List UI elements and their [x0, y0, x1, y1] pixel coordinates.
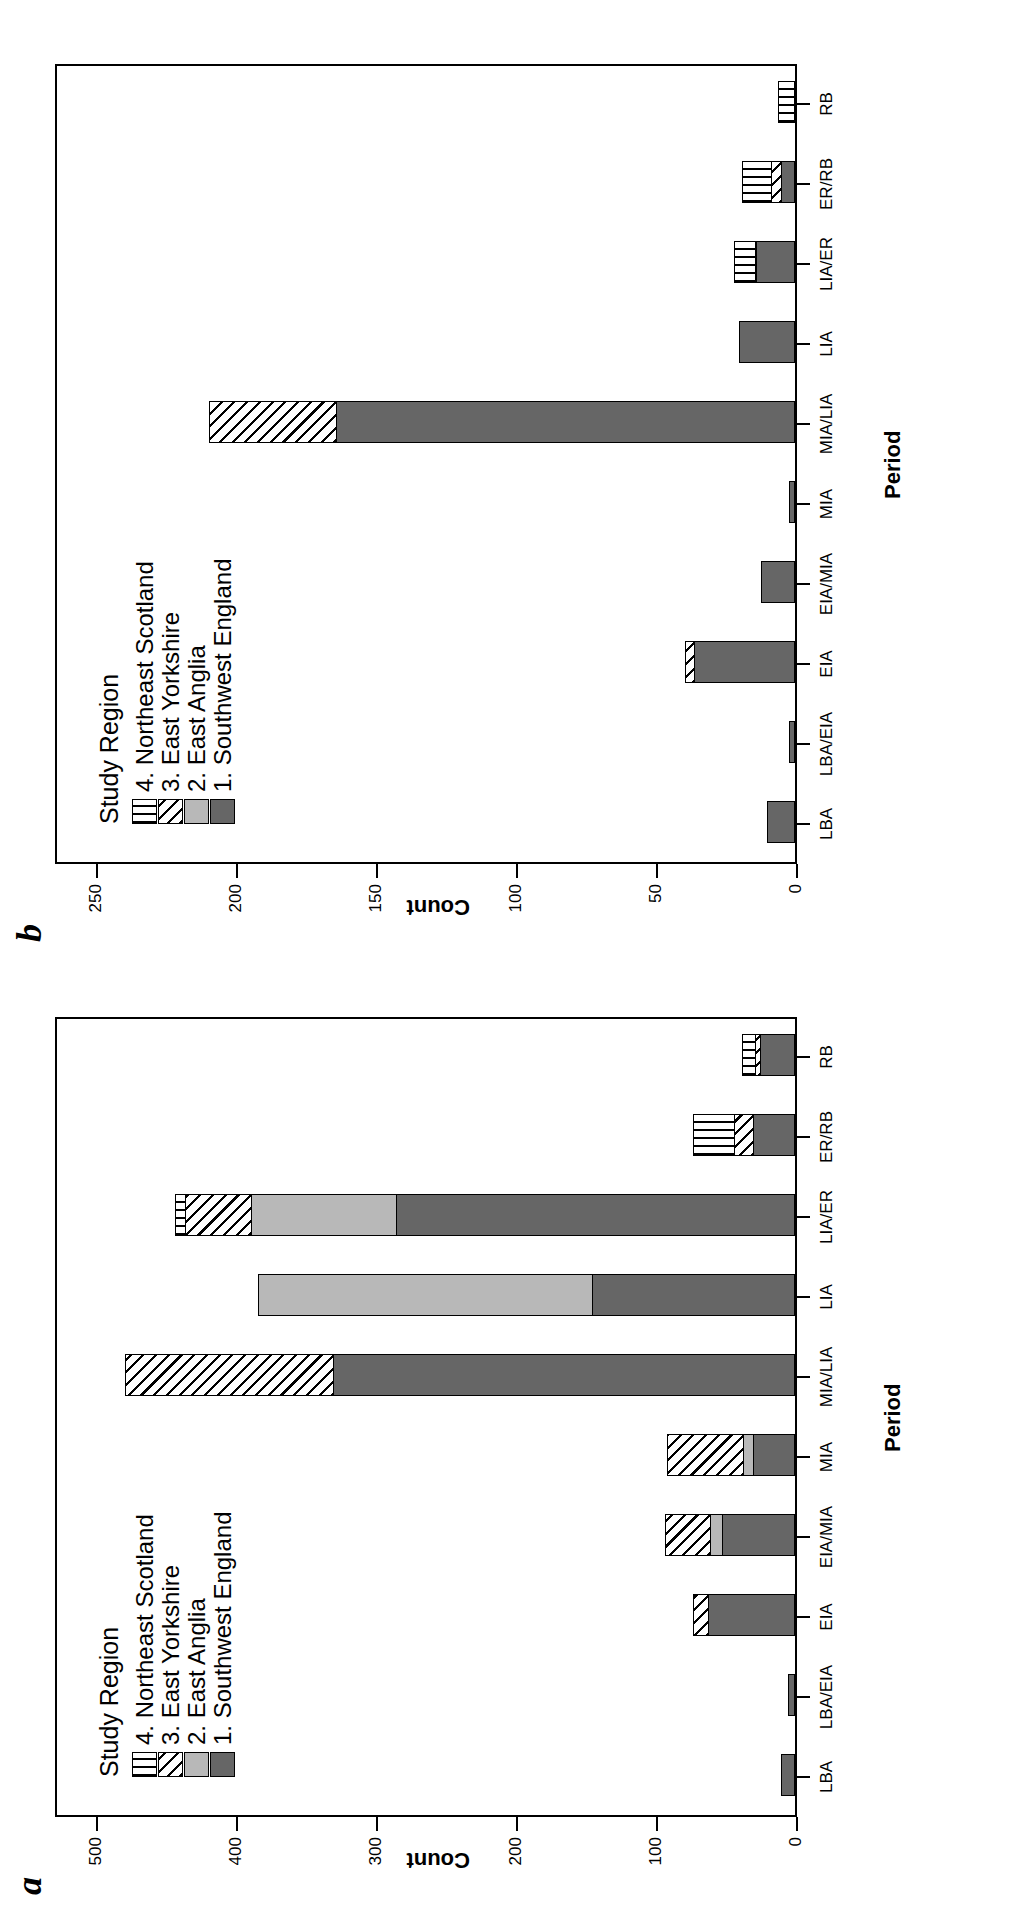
bar-segment-region-3	[667, 1434, 745, 1476]
y-tick-mark	[96, 864, 98, 878]
legend-swatch-diagonal-hatch-icon	[158, 799, 183, 824]
bar-group-LIA-ER	[57, 1194, 795, 1236]
bar-group-MIA	[57, 1434, 795, 1476]
bar-group-MIA-LIA	[57, 1354, 795, 1396]
y-tick-label: 0	[786, 884, 806, 942]
y-tick-mark	[376, 1817, 378, 1831]
stacked-bar	[667, 1514, 795, 1556]
y-tick-label: 500	[86, 1837, 106, 1895]
legend-item-2: 2. East Anglia	[184, 559, 209, 825]
legend-swatch-light-grey-icon	[184, 799, 209, 824]
y-tick-label: 250	[86, 884, 106, 942]
x-tick-mark	[797, 1536, 810, 1538]
legend-item-4: 4. Northeast Scotland	[132, 559, 157, 825]
bar-segment-region-3	[185, 1194, 252, 1236]
x-tick-mark	[797, 1616, 810, 1618]
x-tick-mark	[797, 183, 810, 185]
x-tick-mark	[797, 1696, 810, 1698]
stacked-bar	[695, 1114, 795, 1156]
x-tick-mark	[797, 1136, 810, 1138]
legend-item-label: 1. Southwest England	[209, 1512, 237, 1746]
bar-segment-region-1	[694, 641, 795, 683]
y-tick-mark	[376, 864, 378, 878]
bar-segment-region-1	[781, 1754, 795, 1796]
bar-segment-region-1	[767, 801, 795, 843]
y-tick-label: 0	[786, 1837, 806, 1895]
panel-b-y-axis-title: Count	[406, 894, 470, 920]
panel-b-x-axis-title: Period	[880, 431, 906, 499]
y-tick-mark	[96, 1817, 98, 1831]
legend-item-3: 3. East Yorkshire	[158, 1512, 183, 1778]
bar-segment-region-1	[333, 1354, 795, 1396]
stacked-bar	[177, 1194, 795, 1236]
stacked-bar	[126, 1354, 795, 1396]
legend-item-label: 4. Northeast Scotland	[131, 561, 159, 792]
stacked-bar	[791, 721, 795, 763]
stacked-bar	[783, 1754, 795, 1796]
bar-segment-region-1	[722, 1514, 795, 1556]
bar-group-MIA	[57, 481, 795, 523]
x-tick-mark	[797, 343, 810, 345]
legend-swatch-diagonal-hatch-icon	[158, 1752, 183, 1777]
y-tick-mark	[516, 864, 518, 878]
legend-item-label: 3. East Yorkshire	[157, 612, 185, 792]
bar-group-RB	[57, 1034, 795, 1076]
stacked-bar	[735, 241, 795, 283]
panel-a-legend: Study Region 4. Northeast Scotland3. Eas…	[95, 1512, 235, 1778]
bar-segment-region-1	[592, 1274, 795, 1316]
x-tick-mark	[797, 583, 810, 585]
legend-item-label: 3. East Yorkshire	[157, 1565, 185, 1745]
legend-swatch-vertical-stripes-icon	[132, 1752, 157, 1777]
bar-segment-region-1	[739, 321, 795, 363]
bar-segment-region-3	[209, 401, 338, 443]
stacked-bar	[769, 801, 795, 843]
x-tick-mark	[797, 1456, 810, 1458]
legend-item-label: 2. East Anglia	[183, 1598, 211, 1745]
bar-segment-region-3	[734, 1114, 755, 1156]
x-tick-mark	[797, 1056, 810, 1058]
bar-segment-region-2	[251, 1194, 398, 1236]
panel-b: b 050100150200250 LBALBA/EIAEIAEIA/MIAMI…	[0, 0, 1021, 954]
panel-b-legend: Study Region 4. Northeast Scotland3. Eas…	[95, 559, 235, 825]
y-tick-label: 150	[366, 884, 386, 942]
x-tick-mark	[797, 1776, 810, 1778]
bar-group-ER-RB	[57, 161, 795, 203]
legend-item-1: 1. Southwest England	[210, 559, 235, 825]
bar-segment-region-1	[753, 1114, 795, 1156]
y-tick-label: 200	[226, 884, 246, 942]
x-tick-mark	[797, 823, 810, 825]
y-tick-label: 50	[646, 884, 666, 942]
stacked-bar	[668, 1434, 795, 1476]
x-tick-mark	[797, 743, 810, 745]
bar-group-LIA	[57, 321, 795, 363]
y-tick-label: 100	[646, 1837, 666, 1895]
panel-b-letter: b	[8, 924, 50, 942]
x-tick-mark	[797, 263, 810, 265]
stacked-bar	[790, 1674, 795, 1716]
y-tick-mark	[656, 864, 658, 878]
x-tick-label-RB: RB	[817, 1002, 837, 1112]
bar-group-MIA-LIA	[57, 401, 795, 443]
legend-title: Study Region	[95, 1512, 124, 1778]
legend-items: 4. Northeast Scotland3. East Yorkshire2.…	[132, 559, 235, 825]
legend-swatch-dark-grey-icon	[210, 1752, 235, 1777]
panel-a: a 0100200300400500 LBALBA/EIAEIAEIA/MIAM…	[0, 954, 1021, 1907]
x-tick-mark	[797, 1216, 810, 1218]
legend-items: 4. Northeast Scotland3. East Yorkshire2.…	[132, 1512, 235, 1778]
bar-segment-region-1	[789, 721, 795, 763]
bar-segment-region-4	[742, 161, 773, 203]
stacked-bar	[695, 1594, 795, 1636]
legend-swatch-vertical-stripes-icon	[132, 799, 157, 824]
x-tick-mark	[797, 1296, 810, 1298]
bar-segment-region-1	[753, 1434, 795, 1476]
bar-segment-region-4	[778, 81, 795, 123]
stacked-bar	[780, 81, 795, 123]
y-tick-mark	[236, 1817, 238, 1831]
panel-a-y-axis-title: Count	[406, 1847, 470, 1873]
bar-group-LIA	[57, 1274, 795, 1316]
stacked-bar	[210, 401, 795, 443]
legend-item-3: 3. East Yorkshire	[158, 559, 183, 825]
y-tick-mark	[656, 1817, 658, 1831]
bar-group-LIA-ER	[57, 241, 795, 283]
bar-segment-region-2	[258, 1274, 594, 1316]
